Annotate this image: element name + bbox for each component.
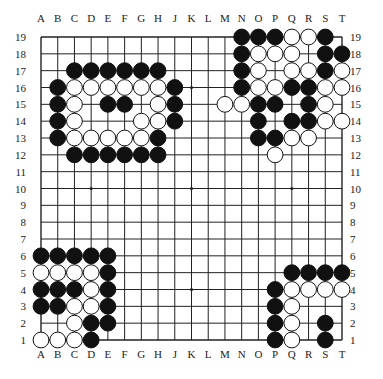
black-stone: [267, 29, 283, 45]
column-label-bottom: P: [272, 348, 278, 360]
column-label-top: S: [322, 12, 328, 24]
black-stone: [250, 96, 266, 112]
black-stone: [167, 113, 183, 129]
row-label-left: 8: [21, 216, 27, 228]
black-stone: [334, 265, 350, 281]
star-point: [90, 187, 93, 190]
row-label-right: 5: [350, 267, 356, 279]
row-label-left: 7: [21, 233, 27, 245]
black-stone: [284, 80, 300, 96]
row-label-left: 3: [21, 300, 27, 312]
black-stone: [117, 96, 133, 112]
column-label-bottom: G: [137, 348, 145, 360]
black-stone: [83, 315, 99, 331]
column-label-top: A: [37, 12, 45, 24]
column-label-bottom: T: [339, 348, 346, 360]
star-point: [190, 187, 193, 190]
white-stone: [334, 113, 350, 129]
row-label-right: 8: [350, 216, 356, 228]
black-stone: [317, 63, 333, 79]
black-stone: [150, 147, 166, 163]
row-label-left: 19: [15, 31, 27, 43]
white-stone: [50, 332, 66, 348]
white-stone: [50, 265, 66, 281]
row-label-left: 16: [15, 82, 27, 94]
white-stone: [117, 130, 133, 146]
white-stone: [301, 63, 317, 79]
column-label-bottom: D: [87, 348, 95, 360]
black-stone: [234, 63, 250, 79]
column-label-top: F: [122, 12, 128, 24]
white-stone: [334, 282, 350, 298]
row-label-left: 18: [15, 48, 27, 60]
white-stone: [284, 315, 300, 331]
black-stone: [50, 80, 66, 96]
white-stone: [317, 113, 333, 129]
black-stone: [50, 298, 66, 314]
row-label-left: 4: [21, 284, 27, 296]
white-stone: [150, 80, 166, 96]
white-stone: [83, 130, 99, 146]
row-label-left: 10: [15, 183, 27, 195]
go-board-svg[interactable]: AABBCCDDEEFFGGHHJJKKLLMMNNOOPPQQRRSSTT19…: [0, 0, 383, 379]
white-stone: [301, 130, 317, 146]
black-stone: [33, 248, 49, 264]
white-stone: [83, 298, 99, 314]
row-label-left: 9: [21, 199, 27, 211]
white-stone: [317, 96, 333, 112]
go-board[interactable]: AABBCCDDEEFFGGHHJJKKLLMMNNOOPPQQRRSSTT19…: [0, 0, 383, 379]
row-label-right: 12: [350, 149, 361, 161]
row-label-right: 19: [350, 31, 362, 43]
black-stone: [334, 46, 350, 62]
column-label-top: J: [173, 12, 178, 24]
white-stone: [284, 46, 300, 62]
row-label-right: 11: [350, 166, 361, 178]
column-label-top: E: [105, 12, 112, 24]
row-label-left: 11: [15, 166, 26, 178]
black-stone: [100, 315, 116, 331]
white-stone: [117, 80, 133, 96]
white-stone: [250, 80, 266, 96]
column-label-bottom: N: [238, 348, 246, 360]
black-stone: [317, 29, 333, 45]
black-stone: [67, 63, 83, 79]
black-stone: [317, 332, 333, 348]
column-label-top: N: [238, 12, 246, 24]
row-label-right: 4: [350, 284, 356, 296]
white-stone: [284, 332, 300, 348]
black-stone: [50, 96, 66, 112]
black-stone: [100, 265, 116, 281]
black-stone: [133, 147, 149, 163]
white-stone: [250, 46, 266, 62]
column-label-bottom: O: [254, 348, 262, 360]
column-label-top: Q: [288, 12, 296, 24]
row-label-right: 10: [350, 183, 362, 195]
column-label-top: D: [87, 12, 95, 24]
black-stone: [250, 113, 266, 129]
black-stone: [301, 96, 317, 112]
white-stone: [250, 63, 266, 79]
black-stone: [317, 46, 333, 62]
white-stone: [33, 332, 49, 348]
white-stone: [334, 63, 350, 79]
row-label-right: 15: [350, 98, 362, 110]
column-label-bottom: K: [188, 348, 196, 360]
black-stone: [150, 63, 166, 79]
black-stone: [167, 80, 183, 96]
row-label-right: 3: [350, 300, 356, 312]
white-stone: [217, 96, 233, 112]
white-stone: [267, 80, 283, 96]
black-stone: [133, 63, 149, 79]
black-stone: [234, 46, 250, 62]
column-label-top: K: [188, 12, 196, 24]
row-label-left: 14: [15, 115, 27, 127]
black-stone: [50, 282, 66, 298]
black-stone: [150, 130, 166, 146]
column-label-bottom: B: [54, 348, 61, 360]
black-stone: [83, 248, 99, 264]
black-stone: [267, 96, 283, 112]
row-label-left: 1: [21, 334, 27, 346]
column-label-top: T: [339, 12, 346, 24]
black-stone: [234, 29, 250, 45]
row-label-right: 6: [350, 250, 356, 262]
